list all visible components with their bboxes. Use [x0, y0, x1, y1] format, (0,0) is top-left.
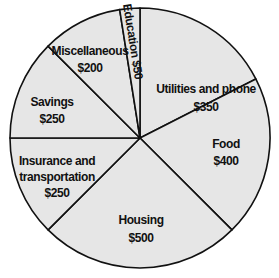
label-misc-value: $200 [77, 61, 103, 75]
label-housing-name: Housing [118, 213, 163, 227]
label-savings-name: Savings [30, 95, 74, 109]
label-food-value: $400 [213, 154, 239, 168]
label-insurance-name-1: Insurance and [19, 154, 95, 168]
label-insurance-name-2: transportation [19, 170, 95, 184]
label-housing-value: $500 [128, 231, 154, 245]
label-misc-name: Miscellaneous [52, 44, 130, 58]
label-savings-value: $250 [39, 112, 65, 126]
label-utilities-name: Utilities and phone [156, 82, 256, 96]
label-food-name: Food [212, 137, 240, 151]
label-insurance-value: $250 [44, 186, 70, 200]
pie-chart: Utilities and phone $350 Food $400 Housi… [0, 0, 279, 278]
label-utilities-value: $350 [193, 100, 219, 114]
